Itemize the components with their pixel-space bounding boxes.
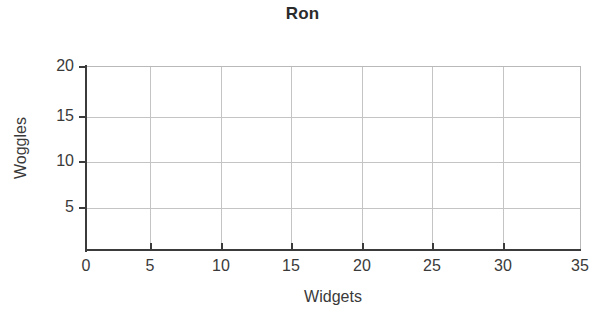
x-axis-tick-label: 0 (64, 258, 108, 274)
gridline-horizontal (86, 162, 580, 163)
x-axis-tick-label: 15 (269, 258, 313, 274)
x-axis-tick-label: 25 (410, 258, 454, 274)
y-axis-line (85, 65, 87, 252)
y-axis-tick-label: 10 (30, 153, 74, 169)
chart-title: Ron (0, 4, 605, 24)
plot-area (86, 66, 580, 250)
y-axis-tick-mark (79, 66, 86, 68)
x-axis-tick-label: 35 (558, 258, 602, 274)
gridline-horizontal (86, 208, 580, 209)
x-axis-tick-mark (150, 243, 152, 250)
gridline-vertical (221, 66, 222, 250)
x-axis-tick-mark (503, 243, 505, 250)
gridline-vertical (362, 66, 363, 250)
y-axis-tick-mark (79, 207, 86, 209)
x-axis-tick-mark (432, 243, 434, 250)
x-axis-line (85, 249, 581, 251)
x-axis-tick-label: 10 (199, 258, 243, 274)
gridline-vertical (503, 66, 504, 250)
x-axis-tick-label: 20 (340, 258, 384, 274)
gridline-vertical (291, 66, 292, 250)
x-axis-tick-label: 5 (128, 258, 172, 274)
plot-border-top (86, 66, 581, 67)
y-axis-title: Woggles (12, 98, 30, 198)
y-axis-tick-label: 15 (30, 108, 74, 124)
gridline-vertical (150, 66, 151, 250)
x-axis-tick-mark (291, 243, 293, 250)
y-axis-tick-label: 5 (30, 199, 74, 215)
x-axis-tick-mark (221, 243, 223, 250)
gridline-horizontal (86, 117, 580, 118)
gridline-vertical (432, 66, 433, 250)
chart-figure: Ron 201510505101520253035 Woggles Widget… (0, 0, 605, 327)
x-axis-tick-label: 30 (481, 258, 525, 274)
y-axis-tick-label: 20 (30, 58, 74, 74)
x-axis-title: Widgets (86, 288, 580, 306)
x-axis-tick-mark (362, 243, 364, 250)
y-axis-tick-mark (79, 116, 86, 118)
y-axis-tick-mark (79, 161, 86, 163)
plot-border-right (580, 66, 581, 251)
